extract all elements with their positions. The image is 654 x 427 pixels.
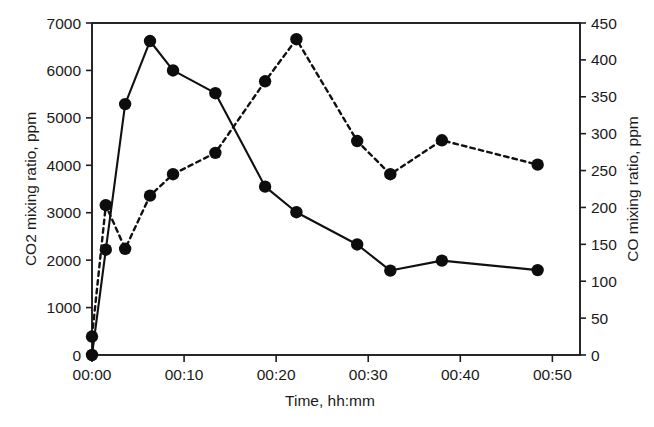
x-axis-ticks: 00:0000:1000:2000:3000:4000:50 — [73, 355, 573, 383]
y-axis-left-tick-label: 3000 — [47, 204, 82, 221]
y-axis-right-title: CO mixing ratio, ppm — [624, 116, 641, 262]
y-axis-right-tick-label: 200 — [591, 199, 617, 216]
data-point-co2 — [436, 254, 448, 266]
y-axis-left-tick-label: 5000 — [47, 109, 82, 126]
data-point-co2 — [259, 180, 271, 192]
data-point-co — [119, 243, 131, 255]
x-axis-tick-label: 00:00 — [73, 366, 112, 383]
x-axis-tick-label: 00:40 — [441, 366, 480, 383]
data-point-co2 — [290, 206, 302, 218]
y-axis-right-tick-label: 450 — [591, 15, 617, 32]
y-axis-right-tick-label: 50 — [591, 310, 609, 327]
y-axis-right-tick-label: 150 — [591, 236, 617, 253]
y-axis-left-tick-label: 1000 — [47, 299, 82, 316]
data-point-co2 — [384, 264, 396, 276]
y-axis-left-title: CO2 mixing ratio, ppm — [22, 112, 39, 266]
x-axis-tick-label: 00:20 — [257, 366, 296, 383]
y-axis-right-tick-label: 0 — [591, 347, 600, 364]
plot-frame — [92, 23, 580, 355]
data-point-co2 — [167, 64, 179, 76]
chart-figure: 01000200030004000500060007000 0501001502… — [0, 0, 654, 427]
y-axis-right-tick-label: 350 — [591, 88, 617, 105]
y-axis-right-tick-label: 400 — [591, 51, 617, 68]
x-axis-tick-label: 00:50 — [533, 366, 572, 383]
x-axis-tick-label: 00:30 — [349, 366, 388, 383]
y-axis-left-tick-label: 4000 — [47, 157, 82, 174]
data-point-co2 — [351, 238, 363, 250]
data-point-co2 — [209, 87, 221, 99]
y-axis-left-tick-label: 7000 — [47, 15, 82, 32]
data-point-co — [86, 330, 98, 342]
y-axis-left-tick-label: 2000 — [47, 252, 82, 269]
y-axis-left-tick-label: 6000 — [47, 62, 82, 79]
data-point-co — [436, 134, 448, 146]
data-point-co — [144, 189, 156, 201]
data-point-co — [209, 147, 221, 159]
y-axis-left-ticks: 01000200030004000500060007000 — [47, 15, 92, 364]
chart-canvas: 01000200030004000500060007000 0501001502… — [0, 0, 654, 427]
data-point-co — [100, 199, 112, 211]
series-line-co2 — [92, 41, 538, 355]
data-point-co — [384, 168, 396, 180]
data-point-co — [531, 158, 543, 170]
y-axis-right-tick-label: 250 — [591, 162, 617, 179]
data-point-co — [290, 33, 302, 45]
data-point-co — [167, 168, 179, 180]
data-point-co2 — [144, 35, 156, 47]
data-point-co — [351, 135, 363, 147]
data-point-co2 — [86, 349, 98, 361]
y-axis-right-tick-label: 300 — [591, 125, 617, 142]
x-axis-tick-label: 00:10 — [165, 366, 204, 383]
data-point-co2 — [119, 98, 131, 110]
series-line-co — [92, 39, 538, 336]
series-layer — [86, 33, 544, 361]
data-point-co — [259, 75, 271, 87]
y-axis-right-ticks: 050100150200250300350400450 — [580, 15, 617, 364]
x-axis-title: Time, hh:mm — [285, 392, 375, 409]
y-axis-left-tick-label: 0 — [72, 347, 81, 364]
y-axis-right-tick-label: 100 — [591, 273, 617, 290]
data-point-co2 — [531, 264, 543, 276]
